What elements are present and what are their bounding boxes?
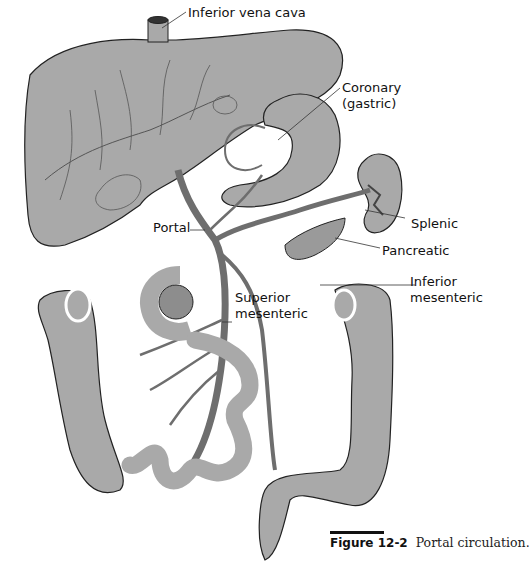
label-pancreatic: Pancreatic <box>382 243 450 258</box>
caption-text: Portal circulation. <box>416 535 530 550</box>
label-inferior: Inferior <box>410 274 458 289</box>
label-superior: Superior <box>235 290 291 305</box>
label-superior-mesenteric: mesenteric <box>235 306 308 321</box>
label-gastric: (gastric) <box>342 96 396 111</box>
small-intestine <box>130 340 250 481</box>
label-coronary: Coronary <box>342 80 402 95</box>
label-splenic: Splenic <box>411 216 458 231</box>
ascending-colon <box>38 289 123 493</box>
descending-colon <box>259 284 393 560</box>
figure-caption: Figure 12-2Portal circulation. <box>330 533 530 551</box>
caption-number: Figure 12-2 <box>330 536 408 550</box>
label-inferior-mesenteric: mesenteric <box>410 290 483 305</box>
duodenum <box>149 275 193 332</box>
inferior-vena-cava <box>148 12 186 42</box>
label-inferior-vena-cava: Inferior vena cava <box>188 5 306 20</box>
label-portal: Portal <box>153 220 190 235</box>
pancreas <box>285 218 345 259</box>
